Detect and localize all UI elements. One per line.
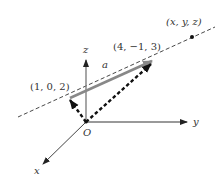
vector-a-label: a — [102, 59, 108, 70]
position-vector-p2 — [86, 64, 151, 122]
position-vector-p1 — [70, 100, 86, 122]
point-xyz — [190, 35, 194, 39]
point-p1-label: (1, 0, 2) — [30, 81, 70, 92]
origin-label: O — [83, 127, 91, 138]
vector-line-diagram: z y x O a (1, 0, 2) (4, −1, 3) (x, y, z) — [0, 0, 221, 184]
point-p2-label: (4, −1, 3) — [113, 41, 161, 52]
x-axis-label: x — [34, 165, 40, 176]
y-axis-label: y — [192, 116, 199, 127]
x-axis — [43, 122, 86, 164]
z-axis-label: z — [82, 44, 89, 55]
point-p3-label: (x, y, z) — [166, 16, 202, 27]
origin-point — [84, 120, 87, 123]
vector-a — [70, 61, 152, 98]
